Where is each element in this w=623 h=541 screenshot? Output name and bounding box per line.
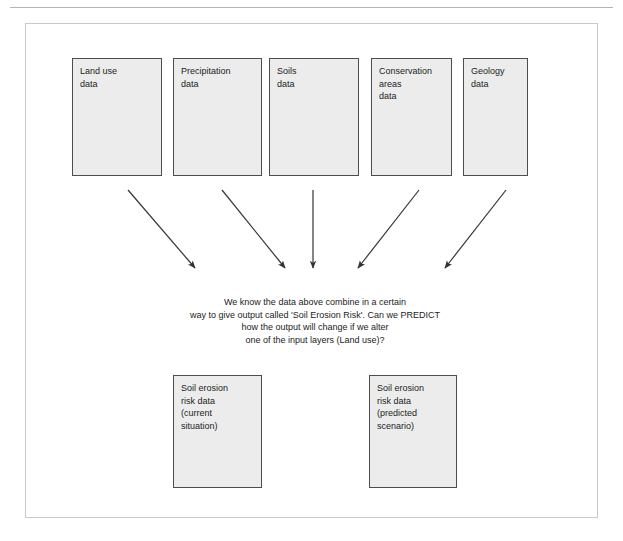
input-box-geology: Geology data <box>463 58 528 176</box>
input-box-conservation-areas: Conservation areas data <box>371 58 452 176</box>
input-box-precipitation-label: Precipitation data <box>181 65 258 90</box>
input-box-conservation-areas-label: Conservation areas data <box>379 65 448 103</box>
output-box-predicted-scenario-label: Soil erosion risk data (predicted scenar… <box>377 382 453 432</box>
input-box-land-use-label: Land use data <box>80 65 158 90</box>
input-box-geology-label: Geology data <box>471 65 524 90</box>
input-box-precipitation: Precipitation data <box>173 58 262 176</box>
header-divider <box>10 7 613 8</box>
output-box-predicted-scenario: Soil erosion risk data (predicted scenar… <box>369 375 457 488</box>
output-box-current-situation-label: Soil erosion risk data (current situatio… <box>181 382 258 432</box>
input-box-soils-label: Soils data <box>277 65 355 90</box>
input-box-land-use: Land use data <box>72 58 162 176</box>
central-statement-text: We know the data above combine in a cert… <box>150 296 480 346</box>
cut-off-header-text <box>0 0 623 4</box>
diagram-frame: Land use data Precipitation data Soils d… <box>25 23 598 518</box>
figure-page: Land use data Precipitation data Soils d… <box>0 0 623 541</box>
input-box-soils: Soils data <box>269 58 359 176</box>
output-box-current-situation: Soil erosion risk data (current situatio… <box>173 375 262 488</box>
